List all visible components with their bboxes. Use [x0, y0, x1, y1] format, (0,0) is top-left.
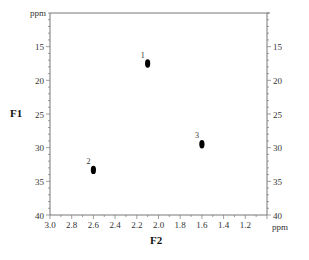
x-tick-label: 2.0: [153, 220, 165, 230]
y-tick-label-right: 25: [273, 110, 283, 120]
x-tick-label: 3.0: [44, 220, 56, 230]
y-tick-label-left: 15: [35, 42, 45, 52]
y-tick-label-left: 30: [35, 143, 45, 153]
peak-marker: [91, 166, 96, 174]
y-unit-label-left: ppm: [30, 8, 46, 18]
y-tick-label-left: 20: [35, 76, 45, 86]
x-tick-label: 2.4: [109, 220, 121, 230]
x-tick-label: 1.8: [175, 220, 187, 230]
peak-label: 1: [141, 51, 145, 60]
peak-1: 1: [141, 51, 151, 68]
y-tick-label-right: 30: [273, 143, 283, 153]
peak-marker: [145, 59, 150, 67]
x-tick-label: 1.6: [196, 220, 208, 230]
x-axis-title: F2: [150, 234, 163, 246]
y-axis-right: 152025303540: [267, 13, 283, 221]
x-tick-label: 2.6: [88, 220, 100, 230]
x-axis: 3.02.82.62.42.22.01.81.61.41.2: [44, 215, 267, 230]
y-tick-label-right: 40: [273, 211, 283, 221]
x-tick-label: 2.2: [131, 220, 142, 230]
plot-area: 152025303540 152025303540 3.02.82.62.42.…: [0, 0, 309, 260]
axes-frame: [50, 13, 270, 215]
peak-label: 2: [86, 157, 90, 166]
x-tick-label: 2.8: [66, 220, 78, 230]
y-tick-label-right: 15: [273, 42, 283, 52]
y-tick-label-left: 25: [35, 110, 45, 120]
y-tick-label-right: 20: [273, 76, 283, 86]
x-tick-label: 1.2: [240, 220, 251, 230]
peak-label: 3: [195, 131, 199, 140]
x-unit-label: ppm: [272, 222, 288, 232]
nmr-2d-spectrum-chart: 152025303540 152025303540 3.02.82.62.42.…: [0, 0, 309, 260]
peak-3: 3: [195, 131, 205, 148]
y-axis-title: F1: [10, 107, 22, 119]
peaks: 123: [86, 51, 204, 175]
y-tick-label-left: 40: [35, 211, 45, 221]
peak-marker: [199, 140, 204, 148]
y-tick-label-left: 35: [35, 177, 45, 187]
y-axis-left: 152025303540: [35, 13, 50, 221]
y-tick-label-right: 35: [273, 177, 283, 187]
peak-2: 2: [86, 157, 96, 174]
x-tick-label: 1.4: [218, 220, 230, 230]
